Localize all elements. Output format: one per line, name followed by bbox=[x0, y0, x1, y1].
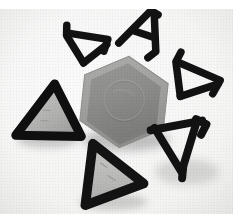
bottom-white-band bbox=[0, 214, 233, 224]
top-white-band bbox=[0, 0, 233, 9]
photo-canvas: Geometric felt shapes on white surface F… bbox=[0, 0, 233, 224]
background-surface bbox=[0, 0, 233, 224]
